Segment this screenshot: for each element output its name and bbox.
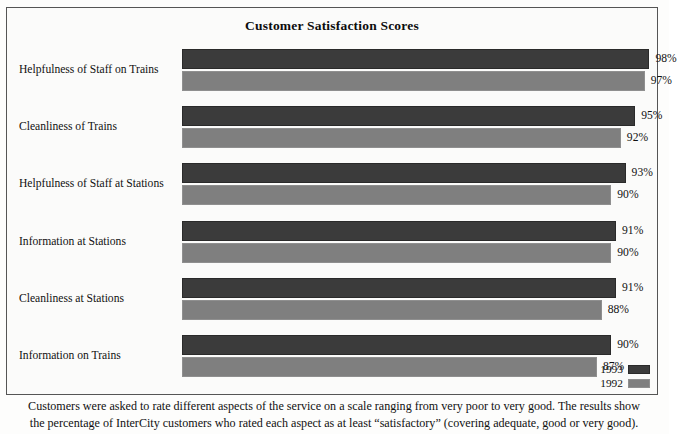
bar-1993 [182, 335, 611, 355]
bar-1993 [182, 278, 616, 298]
bar-group: Information at Stations91%90% [7, 219, 659, 265]
category-label: Information at Stations [19, 232, 179, 252]
category-label: Cleanliness at Stations [19, 289, 179, 309]
bar-row: 91% [182, 278, 659, 298]
bar-1992 [182, 300, 602, 320]
bar-value-label: 93% [632, 164, 653, 182]
bar-value-label: 90% [617, 244, 638, 262]
bar-group: Cleanliness at Stations91%88% [7, 276, 659, 322]
bar-row: 90% [182, 335, 659, 355]
legend-swatch [628, 365, 650, 374]
category-label: Helpfulness of Staff at Stations [19, 174, 179, 194]
bar-value-label: 91% [622, 279, 643, 297]
chart-caption: Customers were asked to rate different a… [6, 398, 662, 431]
bar-value-label: 90% [617, 186, 638, 204]
bar-1992 [182, 128, 621, 148]
bar-value-label: 90% [617, 336, 638, 354]
bar-value-label: 92% [627, 129, 648, 147]
legend-label: 1992 [600, 377, 623, 390]
bar-1993 [182, 163, 626, 183]
chart-panel: Customer Satisfaction Scores Helpfulness… [6, 7, 658, 395]
bar-1993 [182, 106, 635, 126]
chart-legend: 19931992 [578, 363, 650, 391]
bar-row: 95% [182, 106, 659, 126]
caption-line-2: the percentage of InterCity customers wh… [6, 415, 662, 432]
category-label: Cleanliness of Trains [19, 117, 179, 137]
bar-row: 98% [182, 49, 659, 69]
bar-1992 [182, 185, 611, 205]
bar-value-label: 98% [655, 50, 676, 68]
bar-value-label: 95% [641, 107, 662, 125]
bar-row: 90% [182, 185, 659, 205]
caption-line-1: Customers were asked to rate different a… [6, 398, 662, 415]
bar-row: 91% [182, 221, 659, 241]
bar-group: Information on Trains90%87% [7, 333, 659, 379]
bar-1993 [182, 221, 616, 241]
plot-area: Helpfulness of Staff on Trains98%97%Clea… [7, 38, 659, 394]
category-label: Helpfulness of Staff on Trains [19, 60, 179, 80]
bar-group: Helpfulness of Staff on Trains98%97% [7, 47, 659, 93]
bar-row: 90% [182, 243, 659, 263]
bar-value-label: 88% [608, 301, 629, 319]
legend-item-1993: 1993 [578, 363, 650, 376]
legend-swatch [628, 379, 650, 388]
legend-item-1992: 1992 [578, 377, 650, 390]
category-label: Information on Trains [19, 346, 179, 366]
bar-1992 [182, 71, 645, 91]
legend-label: 1993 [600, 363, 623, 376]
bar-row: 92% [182, 128, 659, 148]
bar-group: Cleanliness of Trains95%92% [7, 104, 659, 150]
bar-value-label: 97% [651, 72, 672, 90]
bar-1992 [182, 357, 597, 377]
bar-row: 97% [182, 71, 659, 91]
bar-row: 88% [182, 300, 659, 320]
bar-1993 [182, 49, 649, 69]
bar-group: Helpfulness of Staff at Stations93%90% [7, 161, 659, 207]
bar-1992 [182, 243, 611, 263]
chart-title: Customer Satisfaction Scores [7, 18, 657, 34]
bar-value-label: 91% [622, 222, 643, 240]
bar-row: 93% [182, 163, 659, 183]
